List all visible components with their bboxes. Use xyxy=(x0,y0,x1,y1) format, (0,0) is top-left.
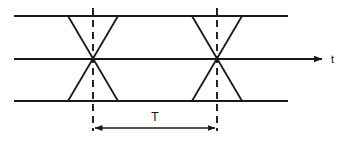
time-axis-label: t xyxy=(331,53,334,65)
eye-diagram-figure: t T xyxy=(0,0,344,144)
eye-diagram-canvas: t T xyxy=(0,0,344,144)
period-label: T xyxy=(151,110,159,124)
figure-background xyxy=(0,0,344,144)
